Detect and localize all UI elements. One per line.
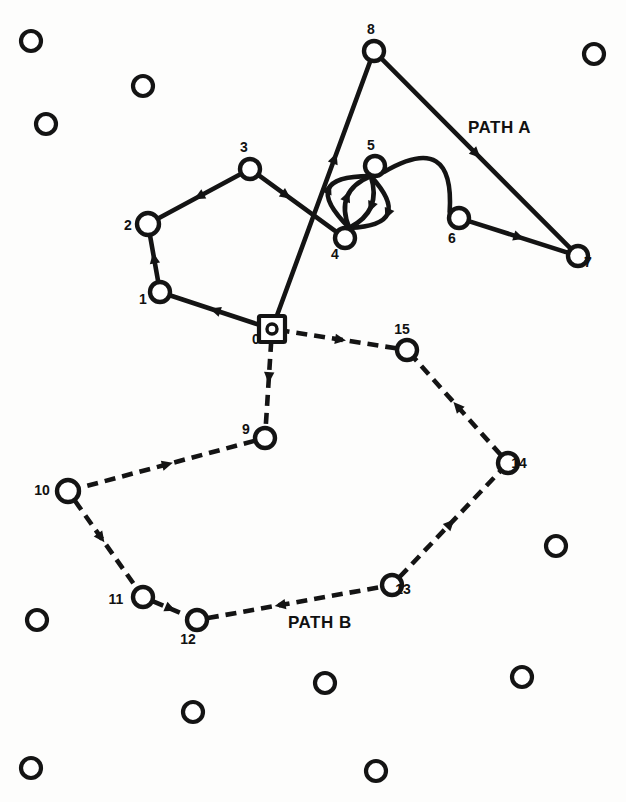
edge-direction-arrow xyxy=(328,153,338,165)
node-label-6: 6 xyxy=(448,230,456,246)
graph-node-2[interactable] xyxy=(137,213,159,235)
edge-direction-arrow xyxy=(210,307,222,317)
node-label-4: 4 xyxy=(331,246,339,262)
path-labels-layer: PATH A PATH B xyxy=(288,118,531,632)
node-labels-layer: 0123456789101112131415 xyxy=(34,21,592,647)
node-label-1: 1 xyxy=(139,291,147,307)
node-label-15: 15 xyxy=(394,321,410,337)
graph-node-6[interactable] xyxy=(449,208,469,228)
node-label-9: 9 xyxy=(242,421,250,437)
edge-direction-arrow xyxy=(512,231,524,241)
graph-node-4[interactable] xyxy=(335,228,355,248)
graph-node-15[interactable] xyxy=(397,340,417,360)
graph-node-9[interactable] xyxy=(255,428,275,448)
edge-direction-arrow xyxy=(163,602,175,612)
background-circle xyxy=(21,31,41,51)
background-circle xyxy=(133,76,153,96)
edge-direction-arrow xyxy=(264,372,274,383)
edge-direction-arrow xyxy=(275,599,287,609)
node-label-13: 13 xyxy=(395,581,411,597)
graph-edge xyxy=(266,341,272,427)
graph-node-10[interactable] xyxy=(57,480,79,502)
edge-direction-arrow xyxy=(161,461,173,471)
edge-direction-arrow xyxy=(334,334,346,344)
edges-layer xyxy=(75,59,570,618)
background-circle xyxy=(27,610,47,630)
node-label-14: 14 xyxy=(511,455,527,471)
graph-node-12[interactable] xyxy=(187,610,207,630)
background-circle xyxy=(366,761,386,781)
node-label-8: 8 xyxy=(367,21,375,37)
background-circle xyxy=(36,114,56,134)
graph-diagram-canvas: 0123456789101112131415 PATH A PATH B xyxy=(0,0,626,802)
background-circle xyxy=(546,536,566,556)
node-label-0: 0 xyxy=(252,331,260,347)
node-label-2: 2 xyxy=(124,217,132,233)
graph-node-1[interactable] xyxy=(150,282,170,302)
node-label-12: 12 xyxy=(180,631,196,647)
path-a-label: PATH A xyxy=(468,118,531,137)
graph-svg-surface: 0123456789101112131415 PATH A PATH B xyxy=(0,0,626,802)
background-circle xyxy=(21,758,41,778)
background-circle xyxy=(512,667,532,687)
node-label-3: 3 xyxy=(240,139,248,155)
node-label-10: 10 xyxy=(34,482,50,498)
graph-edge xyxy=(75,501,137,588)
background-circle xyxy=(315,673,335,693)
graph-node-8[interactable] xyxy=(364,41,384,61)
graph-node-3[interactable] xyxy=(240,159,260,179)
graph-edge xyxy=(276,61,370,317)
node-label-5: 5 xyxy=(367,137,375,153)
background-circle xyxy=(183,702,203,722)
path-b-label: PATH B xyxy=(288,613,352,632)
edge-direction-arrow xyxy=(443,520,454,532)
node-label-7: 7 xyxy=(584,254,592,270)
graph-edge xyxy=(384,158,450,212)
graph-node-5[interactable] xyxy=(365,156,385,176)
node-label-11: 11 xyxy=(109,591,124,607)
background-circle xyxy=(584,44,604,64)
graph-node-11[interactable] xyxy=(133,587,153,607)
root-node-inner-circle xyxy=(267,324,277,334)
background-circles-layer xyxy=(21,31,604,781)
